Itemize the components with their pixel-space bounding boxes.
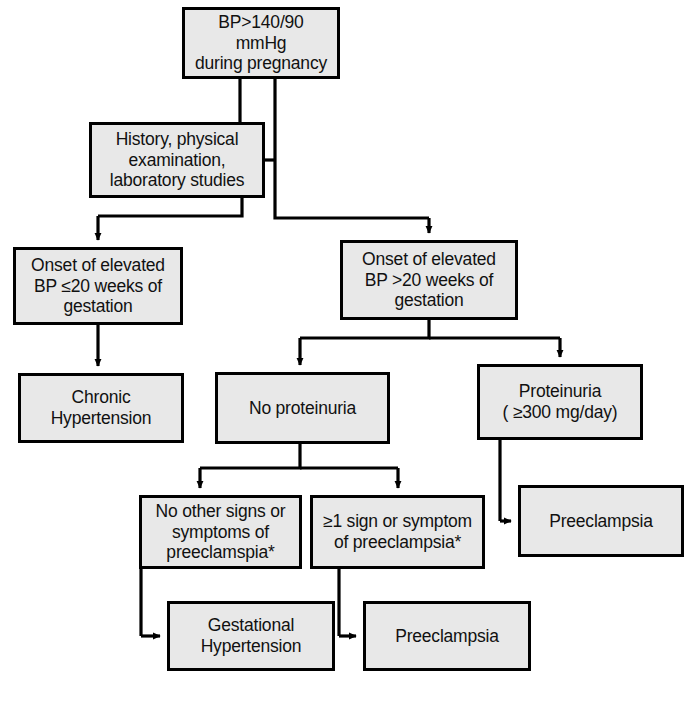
cropped-caption-text: [300, 696, 690, 705]
no-proteinuria-box-label: No proteinuria: [224, 398, 381, 419]
chronic-hypertension-box-label: Chronic Hypertension: [27, 387, 175, 428]
onset-gt-20-weeks-box-label: Onset of elevated BP >20 weeks of gestat…: [349, 249, 509, 311]
preeclampsia-box-bottom-label: Preeclampsia: [372, 626, 522, 647]
one-or-more-sign-box: ≥1 sign or symptom of preeclampsia*: [310, 495, 485, 569]
bp-threshold-box-label: BP>140/90 mmHg during pregnancy: [191, 12, 331, 74]
no-proteinuria-box: No proteinuria: [215, 372, 390, 444]
preeclampsia-box-right-label: Preeclampsia: [527, 511, 675, 532]
chronic-hypertension-box: Chronic Hypertension: [18, 373, 184, 443]
edge-onset-gt20-split-trunk: [300, 320, 429, 338]
onset-le-20-weeks-box-label: Onset of elevated BP ≤20 weeks of gestat…: [22, 255, 174, 317]
no-other-signs-box-label: No other signs or symptoms of preeclamsp…: [148, 501, 293, 563]
history-exam-labs-box-label: History, physical examination, laborator…: [98, 129, 256, 191]
bp-threshold-box: BP>140/90 mmHg during pregnancy: [182, 7, 340, 79]
gestational-hypertension-box-label: Gestational Hypertension: [176, 615, 326, 656]
proteinuria-box: Proteinuria ( ≥300 mg/day): [477, 364, 643, 440]
no-other-signs-box: No other signs or symptoms of preeclamsp…: [139, 495, 302, 569]
preeclampsia-box-bottom: Preeclampsia: [363, 601, 531, 671]
proteinuria-box-label: Proteinuria ( ≥300 mg/day): [486, 381, 634, 422]
preeclampsia-box-right: Preeclampsia: [518, 485, 684, 557]
edge-bp-to-onset-gt20-trunk: [275, 79, 429, 218]
onset-gt-20-weeks-box: Onset of elevated BP >20 weeks of gestat…: [340, 240, 518, 320]
one-or-more-sign-box-label: ≥1 sign or symptom of preeclampsia*: [319, 511, 476, 552]
history-exam-labs-box: History, physical examination, laborator…: [89, 122, 265, 198]
edge-no-proteinuria-split-trunk: [200, 444, 300, 468]
gestational-hypertension-box: Gestational Hypertension: [167, 601, 335, 671]
flowchart-canvas: BP>140/90 mmHg during pregnancyHistory, …: [0, 0, 696, 706]
onset-le-20-weeks-box: Onset of elevated BP ≤20 weeks of gestat…: [13, 247, 183, 325]
edge-history-to-onset-le20-trunk: [98, 198, 242, 216]
connector-layer: [0, 0, 696, 706]
